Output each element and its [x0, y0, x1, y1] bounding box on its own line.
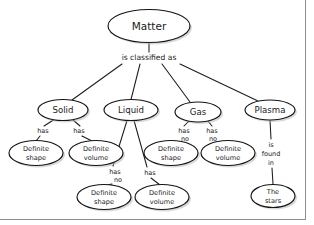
node-solid-shape-line2: shape — [26, 154, 46, 162]
edge-label-solid-shape-has: has — [37, 127, 49, 135]
node-liquid-shape-line2: shape — [94, 198, 114, 206]
edge-label-liquid-volume-has: has — [144, 169, 156, 177]
node-liquid-definite-shape[interactable]: Definite shape — [77, 185, 133, 212]
node-plasma[interactable]: Plasma — [245, 100, 297, 122]
node-solid-label: Solid — [53, 105, 74, 115]
node-stars-line1: The — [266, 188, 279, 196]
node-matter[interactable]: Matter — [108, 10, 192, 45]
node-solid-volume-line1: Definite — [83, 145, 109, 153]
edge-classifier-to-solid — [72, 64, 122, 100]
node-gas-shape-line1: Definite — [158, 145, 184, 153]
edge-label-plasma-in: in — [268, 159, 274, 167]
edge-liquid-to-volume — [134, 121, 147, 168]
edge-plasma-to-stars — [272, 168, 273, 184]
node-liquid-volume-line1: Definite — [149, 189, 175, 197]
node-gas-label: Gas — [190, 107, 207, 117]
edge-label-is-classified-as: is classified as — [122, 53, 177, 62]
node-liquid-shape-line1: Definite — [91, 189, 117, 197]
edge-classifier-to-plasma — [180, 64, 258, 101]
edge-plasma-to-label — [270, 120, 271, 139]
node-gas-shape-line2: shape — [161, 154, 181, 162]
node-liquid[interactable]: Liquid — [104, 100, 160, 123]
edge-label-plasma-found: found — [262, 150, 281, 158]
node-the-stars[interactable]: The stars — [251, 185, 297, 210]
edge-label-plasma-is: is — [268, 141, 274, 149]
node-gas-definite-volume[interactable]: Definite volume — [201, 141, 257, 168]
edge-label-solid-volume-has: has — [73, 127, 85, 135]
node-plasma-label: Plasma — [255, 105, 286, 115]
node-solid[interactable]: Solid — [38, 100, 90, 123]
node-gas[interactable]: Gas — [175, 102, 223, 124]
node-solid-definite-shape[interactable]: Definite shape — [9, 141, 65, 168]
edge-liquid-volume-tail — [151, 178, 160, 185]
node-gas-volume-line1: Definite — [215, 145, 241, 153]
node-group: Matter Solid Liquid Gas Plasma — [9, 10, 297, 212]
node-liquid-label: Liquid — [118, 105, 144, 115]
node-solid-volume-line2: volume — [84, 154, 108, 162]
concept-map-svg: Matter Solid Liquid Gas Plasma — [0, 0, 314, 225]
node-solid-shape-line1: Definite — [23, 145, 49, 153]
node-gas-definite-shape[interactable]: Definite shape — [144, 141, 200, 168]
edge-label-gas-volume-no: no — [209, 135, 217, 143]
edge-label-liquid-shape-no: no — [114, 176, 122, 184]
node-liquid-volume-line2: volume — [150, 198, 174, 206]
node-stars-line2: stars — [265, 197, 282, 205]
node-gas-volume-line2: volume — [216, 154, 240, 162]
edge-label-gas-shape-has: has — [178, 127, 190, 135]
edge-label-gas-shape-no: no — [181, 135, 189, 143]
node-matter-label: Matter — [132, 20, 167, 32]
edge-label-gas-volume-has: has — [206, 127, 218, 135]
node-liquid-definite-volume[interactable]: Definite volume — [135, 185, 191, 212]
node-solid-definite-volume[interactable]: Definite volume — [69, 141, 125, 168]
edge-label-liquid-shape-has: has — [109, 168, 121, 176]
edge-classifier-to-gas — [162, 64, 190, 102]
edge-classifier-to-liquid — [131, 64, 140, 100]
concept-map-canvas: Matter Solid Liquid Gas Plasma — [0, 0, 314, 225]
